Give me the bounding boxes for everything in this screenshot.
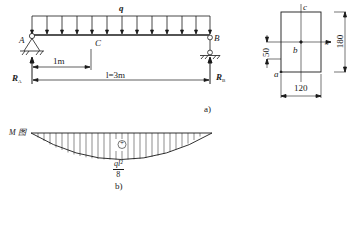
reaction-b-label: RB — [216, 73, 225, 83]
section-offset-dim: 50 — [262, 48, 271, 57]
dimension-ac: 1m — [53, 57, 65, 66]
moment-max-value: ql² 8 — [113, 160, 124, 179]
point-c-label: C — [95, 39, 101, 48]
reaction-a-label: RA — [12, 74, 22, 84]
moment-diagram-title: M 图 — [9, 129, 26, 137]
section-point-c: c — [303, 3, 307, 12]
section-point-b: b — [293, 46, 298, 55]
load-label: q — [119, 4, 124, 13]
load-arrows — [31, 16, 212, 34]
distributed-load — [31, 16, 212, 34]
section-point-a: a — [274, 70, 279, 79]
dimension-span: l=3m — [106, 71, 125, 80]
caption-b: b) — [115, 182, 123, 191]
section-axis-z: z — [323, 43, 329, 46]
support-b-label: B — [214, 34, 220, 43]
section-height-dim: 180 — [336, 35, 345, 49]
section-width-dim: 120 — [294, 84, 308, 93]
moment-sign: + — [120, 140, 124, 147]
support-a-label: A — [19, 36, 25, 45]
diagram-canvas — [0, 0, 353, 226]
caption-a: a) — [204, 105, 211, 114]
